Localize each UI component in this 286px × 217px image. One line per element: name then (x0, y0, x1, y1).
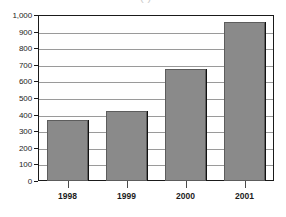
x-axis-tick (127, 181, 128, 188)
y-axis-tick-label: 500 (19, 94, 32, 103)
y-axis-tick-label: 700 (19, 60, 32, 69)
x-axis-tick-label: 2000 (176, 191, 195, 201)
y-axis-tick-label: 300 (19, 127, 32, 136)
y-axis-tick-label: 200 (19, 143, 32, 152)
bar-fill (106, 111, 147, 181)
y-axis-tick-label: 800 (19, 44, 32, 53)
bar-chart: ( ) 01002003004005006007008009001,000 19… (0, 0, 286, 217)
x-axis-tick (245, 181, 246, 188)
bar (224, 22, 272, 181)
x-axis-tick-label: 1999 (117, 191, 136, 201)
chart-title-remnant: ( ) (140, 0, 286, 3)
bar-fill (224, 22, 265, 181)
y-axis-tick-label: 600 (19, 77, 32, 86)
x-axis-ticks (38, 181, 274, 189)
x-axis-tick (68, 181, 69, 188)
x-axis-tick (186, 181, 187, 188)
x-axis-tick-label: 2001 (235, 191, 254, 201)
y-axis-tick-label: 100 (19, 160, 32, 169)
bar (165, 69, 213, 181)
x-axis: 1998199920002001 (38, 191, 274, 205)
y-axis-tick-label: 400 (19, 110, 32, 119)
bar (106, 111, 154, 181)
y-axis: 01002003004005006007008009001,000 (0, 0, 38, 217)
bar (47, 120, 95, 181)
bars-container (38, 15, 274, 181)
y-axis-tick-label: 0 (28, 177, 32, 186)
y-axis-tick-label: 1,000 (12, 11, 32, 20)
x-axis-tick-label: 1998 (58, 191, 77, 201)
bar-fill (165, 69, 206, 181)
y-axis-tick-label: 900 (19, 27, 32, 36)
bar-fill (47, 120, 88, 181)
